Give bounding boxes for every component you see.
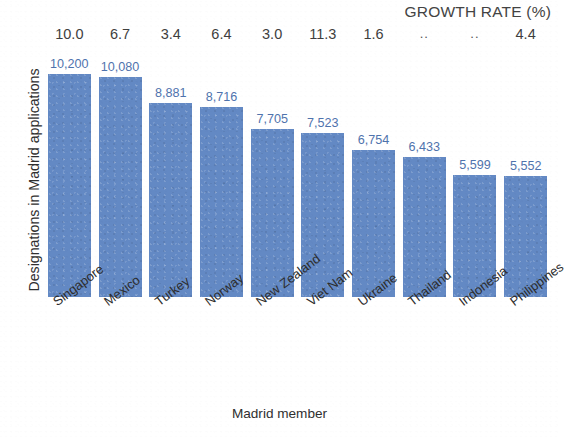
x-axis-title: Madrid member: [0, 406, 559, 421]
growth-rate-value: 4.4: [496, 26, 556, 42]
bar-group: 6,754: [352, 46, 395, 297]
growth-rate-row: 10.06.73.46.43.011.31.6....4.4: [0, 26, 559, 46]
bar-value-label: 5,552: [482, 159, 568, 173]
y-axis-title: Designations in Madrid applications: [26, 30, 42, 330]
bar-group: 8,716: [200, 46, 243, 297]
bar-group: 10,200: [48, 46, 91, 297]
bar-group: 5,552: [504, 46, 547, 297]
bar-group: 8,881: [149, 46, 192, 297]
bar-group: 7,705: [251, 46, 294, 297]
bar: [200, 107, 243, 297]
plot-area: 10,20010,0808,8818,7167,7057,5236,7546,4…: [44, 46, 551, 297]
bar: [99, 77, 142, 297]
bar: [149, 103, 192, 297]
bar: [48, 74, 91, 297]
bar-group: 10,080: [99, 46, 142, 297]
growth-rate-axis-title: GROWTH RATE (%): [404, 3, 551, 21]
x-axis-tick-labels: SingaporeMexicoTurkeyNorwayNew ZealandVi…: [44, 297, 551, 392]
